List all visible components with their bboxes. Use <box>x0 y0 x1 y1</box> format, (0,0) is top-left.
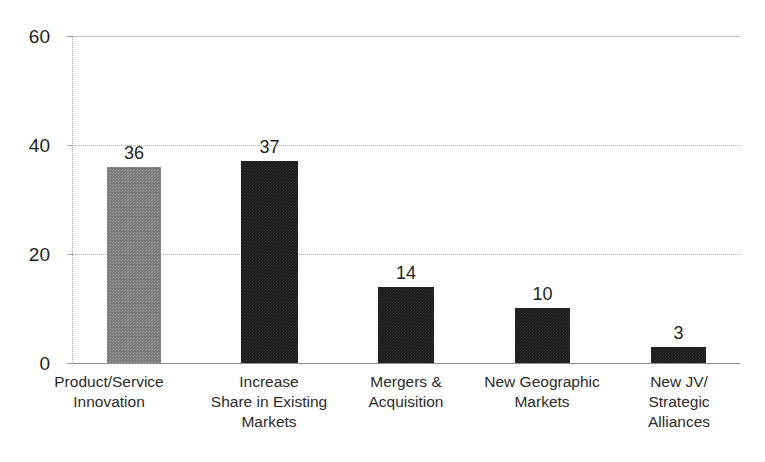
plot-area: 36 37 14 10 3 <box>72 36 740 363</box>
bar-new-geographic-markets[interactable]: 10 <box>515 308 570 363</box>
category-label-mergers-and-acquisition: Mergers & Acquisition <box>341 372 471 412</box>
bar-fill <box>378 287 434 363</box>
bar-fill <box>107 167 161 363</box>
category-label-line: Increase <box>199 372 339 392</box>
bar-mergers-and-acquisition[interactable]: 14 <box>378 287 434 363</box>
category-label-line: New JV/ <box>614 372 744 392</box>
bar-increase-share-in-existing-markets[interactable]: 37 <box>241 161 298 363</box>
category-label-line: New Geographic <box>477 372 607 392</box>
y-tick-mark-0 <box>67 363 73 364</box>
bar-fill <box>651 347 706 363</box>
bar-new-jv-strategic-alliances[interactable]: 3 <box>651 347 706 363</box>
y-axis-line <box>72 36 73 364</box>
y-tick-mark-40 <box>67 145 73 146</box>
category-label-new-jv-strategic-alliances: New JV/ Strategic Alliances <box>614 372 744 432</box>
bar-chart: 60 40 20 0 36 37 14 10 <box>0 0 765 462</box>
bar-value-label: 3 <box>621 324 736 342</box>
y-tick-mark-20 <box>67 254 73 255</box>
gridline-20 <box>72 254 740 255</box>
bar-value-label: 10 <box>485 285 600 303</box>
category-label-line: Markets <box>199 412 339 432</box>
x-axis-baseline <box>72 363 740 364</box>
y-tick-label-0: 0 <box>4 354 50 373</box>
category-label-line: Markets <box>477 392 607 412</box>
bar-value-label: 37 <box>211 138 328 156</box>
y-tick-label-60: 60 <box>4 27 50 46</box>
category-label-line: Strategic <box>614 392 744 412</box>
bar-value-label: 36 <box>77 144 191 162</box>
y-tick-mark-60 <box>67 36 73 37</box>
category-label-line: Share in Existing <box>199 392 339 412</box>
category-label-line: Alliances <box>614 412 744 432</box>
category-label-increase-share-in-existing-markets: Increase Share in Existing Markets <box>199 372 339 432</box>
bar-product-service-innovation[interactable]: 36 <box>107 167 161 363</box>
category-label-new-geographic-markets: New Geographic Markets <box>477 372 607 412</box>
y-tick-label-20: 20 <box>4 245 50 264</box>
category-label-line: Innovation <box>44 392 174 412</box>
category-label-line: Acquisition <box>341 392 471 412</box>
bar-value-label: 14 <box>348 264 464 282</box>
category-label-product-service-innovation: Product/Service Innovation <box>44 372 174 412</box>
category-label-line: Mergers & <box>341 372 471 392</box>
chart-title-clipped <box>0 0 765 5</box>
gridline-60 <box>72 36 740 37</box>
category-label-line: Product/Service <box>44 372 174 392</box>
bar-fill <box>241 161 298 363</box>
y-tick-label-40: 40 <box>4 136 50 155</box>
bar-fill <box>515 308 570 363</box>
